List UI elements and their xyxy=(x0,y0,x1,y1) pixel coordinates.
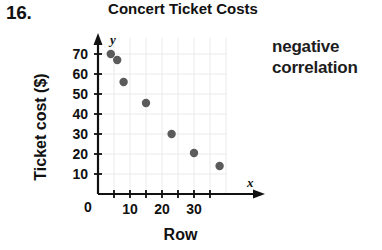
data-point xyxy=(215,162,223,170)
tick-labels: 10203010203040506070 xyxy=(72,46,202,217)
worksheet-problem: 16. Concert Ticket Costs negative correl… xyxy=(0,0,382,250)
data-points xyxy=(107,50,224,170)
data-point xyxy=(107,50,115,58)
x-axis-arrow xyxy=(253,190,265,199)
x-tick-label: 30 xyxy=(186,201,202,217)
origin-label: 0 xyxy=(84,199,92,215)
data-point xyxy=(190,149,198,157)
data-point xyxy=(119,78,127,86)
axis-ticks xyxy=(94,54,210,198)
y-tick-label: 10 xyxy=(72,166,88,182)
data-point xyxy=(142,99,150,107)
y-tick-label: 40 xyxy=(72,106,88,122)
x-tick-label: 20 xyxy=(154,201,170,217)
y-axis-variable-label: y xyxy=(108,32,116,47)
data-point xyxy=(113,56,121,64)
data-point xyxy=(167,130,175,138)
scatter-plot: Ticket cost ($) Row 10203010203040506070… xyxy=(0,0,382,250)
y-tick-label: 70 xyxy=(72,46,88,62)
x-tick-label: 10 xyxy=(122,201,138,217)
x-axis-variable-label: x xyxy=(246,175,254,190)
y-tick-label: 20 xyxy=(72,146,88,162)
y-tick-label: 60 xyxy=(72,66,88,82)
plot-svg: 10203010203040506070 0 y x xyxy=(0,0,382,250)
y-tick-label: 50 xyxy=(72,86,88,102)
y-axis-arrow xyxy=(94,33,103,45)
y-tick-label: 30 xyxy=(72,126,88,142)
